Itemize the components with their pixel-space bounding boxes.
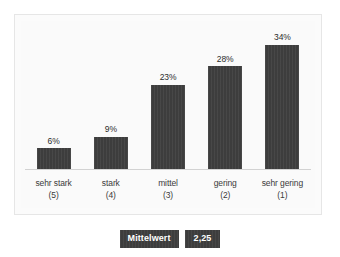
bar-group: 6% (25, 31, 82, 169)
bar-group: 34% (254, 31, 311, 169)
category-name: stark (82, 177, 139, 189)
bar-value-label: 9% (105, 125, 117, 134)
plot-area: 6% 9% 23% 28% 34% (21, 21, 315, 208)
bar-rect (94, 137, 128, 169)
category-code: (1) (254, 189, 311, 201)
category-tick: mittel (3) (139, 177, 196, 201)
category-tick: stark (4) (82, 177, 139, 201)
chart-frame: 6% 9% 23% 28% 34% (14, 14, 322, 215)
category-tick: sehr gering (1) (254, 177, 311, 201)
chart-screenshot: 6% 9% 23% 28% 34% (0, 0, 340, 257)
category-name: sehr stark (25, 177, 82, 189)
category-name: sehr gering (254, 177, 311, 189)
bar-value-label: 23% (160, 73, 177, 82)
category-axis-line (25, 169, 311, 170)
bar-rect (37, 148, 71, 169)
category-name: mittel (139, 177, 196, 189)
category-axis-labels: sehr stark (5) stark (4) mittel (3) geri… (25, 172, 311, 206)
bar-rect (208, 66, 242, 169)
category-tick: sehr stark (5) (25, 177, 82, 201)
mean-value-chip: 2,25 (185, 230, 221, 248)
category-code: (2) (197, 189, 254, 201)
bar-value-label: 6% (48, 137, 60, 146)
bar-series: 6% 9% 23% 28% 34% (25, 31, 311, 169)
mean-label-chip: Mittelwert (120, 230, 179, 248)
bar-value-label: 28% (217, 55, 234, 64)
bar-group: 9% (82, 31, 139, 169)
category-name: gering (197, 177, 254, 189)
bar-rect (151, 85, 185, 169)
bar-value-label: 34% (274, 33, 291, 42)
mean-value-legend: Mittelwert 2,25 (0, 230, 340, 248)
bar-group: 28% (197, 31, 254, 169)
category-code: (4) (82, 189, 139, 201)
category-tick: gering (2) (197, 177, 254, 201)
category-code: (5) (25, 189, 82, 201)
bar-rect (265, 45, 299, 169)
category-code: (3) (139, 189, 196, 201)
bar-group: 23% (139, 31, 196, 169)
